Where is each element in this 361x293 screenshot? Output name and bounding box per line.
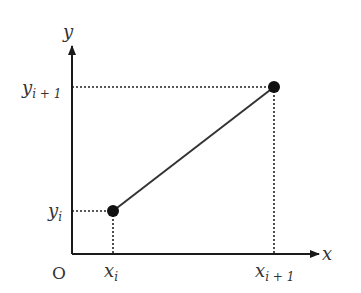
point-i-plus-1 <box>268 81 280 93</box>
y-axis-label: y <box>62 21 74 42</box>
y-i-label: yi <box>47 200 62 224</box>
interpolation-segment <box>113 87 274 211</box>
x-i-label: xi <box>104 260 118 284</box>
interpolation-diagram: y x O yi + 1 yi xi xi + 1 <box>0 0 361 293</box>
y-i-plus-1-label: yi + 1 <box>21 77 61 101</box>
x-axis-label: x <box>322 243 332 264</box>
x-i-plus-1-label: xi + 1 <box>255 260 294 284</box>
point-i <box>107 205 119 217</box>
origin-label: O <box>52 263 66 283</box>
